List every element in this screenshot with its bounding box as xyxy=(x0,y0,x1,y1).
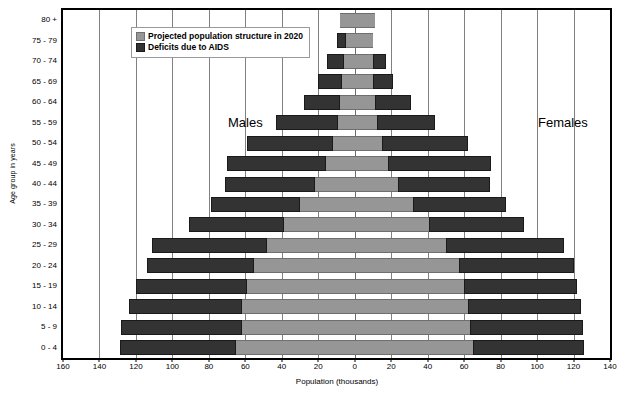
bar-male-deficit xyxy=(189,217,284,232)
bar-male-projected xyxy=(340,13,355,28)
bar-female-deficit xyxy=(413,197,506,212)
y-axis-tick-label: 5 - 9 xyxy=(1,322,57,332)
bar-female-deficit xyxy=(473,340,584,355)
pyramid-row xyxy=(63,279,610,294)
bar-male-projected xyxy=(236,340,355,355)
pyramid-row xyxy=(63,177,610,192)
x-axis-title: Population (thousands) xyxy=(62,377,612,386)
bar-male-deficit xyxy=(129,299,242,314)
bar-male-projected xyxy=(326,156,355,171)
legend-label-projected: Projected population structure in 2020 xyxy=(148,31,303,42)
pyramid-row xyxy=(63,74,610,89)
y-axis-tick-labels: 0 - 45 - 910 - 1415 - 1920 - 2425 - 2930… xyxy=(0,8,57,360)
legend-label-deficits: Deficits due to AIDS xyxy=(148,42,229,53)
bar-female-deficit xyxy=(382,136,468,151)
bar-female-projected xyxy=(355,54,373,69)
plot-inner: Males Females Projected population struc… xyxy=(63,10,610,358)
bar-female-projected xyxy=(355,258,459,273)
legend-swatch-projected-icon xyxy=(136,32,145,41)
pyramid-row xyxy=(63,13,610,28)
pyramid-row xyxy=(63,95,610,110)
x-axis-tick-label: 40 xyxy=(277,362,286,371)
bar-female-deficit xyxy=(468,299,581,314)
bar-female-projected xyxy=(355,217,430,232)
bar-male-projected xyxy=(284,217,355,232)
bar-female-projected xyxy=(355,299,468,314)
bar-male-deficit xyxy=(120,340,237,355)
y-axis-tick-label: 70 - 74 xyxy=(1,56,57,66)
y-axis-tick-label: 60 - 64 xyxy=(1,97,57,107)
pyramid-row xyxy=(63,299,610,314)
bar-female-projected xyxy=(355,115,377,130)
y-axis-tick-label: 65 - 69 xyxy=(1,77,57,87)
bar-female-deficit xyxy=(429,217,524,232)
bar-female-projected xyxy=(355,33,373,48)
bar-male-projected xyxy=(342,74,355,89)
bar-male-deficit xyxy=(337,33,346,48)
bar-female-deficit xyxy=(373,54,386,69)
bar-male-deficit xyxy=(304,95,340,110)
bar-female-deficit xyxy=(459,258,574,273)
y-axis-tick-label: 55 - 59 xyxy=(1,118,57,128)
bar-female-deficit xyxy=(375,95,411,110)
bar-female-projected xyxy=(355,177,399,192)
pyramid-row xyxy=(63,115,610,130)
y-axis-tick-label: 25 - 29 xyxy=(1,240,57,250)
pyramid-row xyxy=(63,156,610,171)
x-axis-tick-label: 140 xyxy=(603,362,616,371)
y-axis-tick-label: 50 - 54 xyxy=(1,138,57,148)
legend-item-projected: Projected population structure in 2020 xyxy=(136,31,303,42)
bar-female-deficit xyxy=(388,156,492,171)
pyramid-row xyxy=(63,320,610,335)
bar-male-projected xyxy=(315,177,355,192)
bar-male-projected xyxy=(254,258,354,273)
bar-male-projected xyxy=(340,95,355,110)
bar-female-deficit xyxy=(398,177,489,192)
bar-male-deficit xyxy=(327,54,343,69)
series-label-females: Females xyxy=(538,115,588,130)
bar-female-projected xyxy=(355,279,464,294)
bar-male-deficit xyxy=(225,177,314,192)
y-axis-tick-label: 30 - 34 xyxy=(1,220,57,230)
x-axis-tick-label: 60 xyxy=(460,362,469,371)
y-axis-tick-label: 15 - 19 xyxy=(1,281,57,291)
y-axis-tick-label: 45 - 49 xyxy=(1,159,57,169)
bar-male-deficit xyxy=(211,197,300,212)
pyramid-row xyxy=(63,136,610,151)
legend-item-deficits: Deficits due to AIDS xyxy=(136,42,303,53)
bar-male-projected xyxy=(333,136,355,151)
y-axis-tick-label: 0 - 4 xyxy=(1,343,57,353)
bar-male-deficit xyxy=(121,320,241,335)
bar-female-projected xyxy=(355,74,373,89)
bar-male-projected xyxy=(247,279,355,294)
x-axis-tick-label: 60 xyxy=(241,362,250,371)
legend-swatch-deficits-icon xyxy=(136,43,145,52)
bar-male-deficit xyxy=(276,115,338,130)
bar-male-deficit xyxy=(318,74,342,89)
bar-female-projected xyxy=(355,136,382,151)
y-axis-tick-label: 80 + xyxy=(1,15,57,25)
y-axis-tick-label: 20 - 24 xyxy=(1,261,57,271)
bar-male-deficit xyxy=(247,136,333,151)
pyramid-row xyxy=(63,238,610,253)
x-axis-tick-label: 120 xyxy=(567,362,580,371)
bar-male-projected xyxy=(338,115,354,130)
bar-female-deficit xyxy=(464,279,577,294)
bar-female-deficit xyxy=(377,115,435,130)
bar-male-deficit xyxy=(227,156,325,171)
bar-male-projected xyxy=(300,197,355,212)
x-axis-tick-label: 40 xyxy=(423,362,432,371)
bar-male-projected xyxy=(242,299,355,314)
pyramid-row xyxy=(63,258,610,273)
chart-legend: Projected population structure in 2020 D… xyxy=(131,27,310,58)
x-axis-tick-label: 100 xyxy=(530,362,543,371)
bar-male-projected xyxy=(267,238,355,253)
x-axis-tick-label: 80 xyxy=(496,362,505,371)
x-axis-tick-label: 0 xyxy=(352,362,356,371)
pyramid-row xyxy=(63,217,610,232)
bar-female-projected xyxy=(355,320,470,335)
bar-female-projected xyxy=(355,13,375,28)
x-axis-tick-label: 20 xyxy=(314,362,323,371)
x-axis-tick-label: 20 xyxy=(387,362,396,371)
pyramid-row xyxy=(63,197,610,212)
